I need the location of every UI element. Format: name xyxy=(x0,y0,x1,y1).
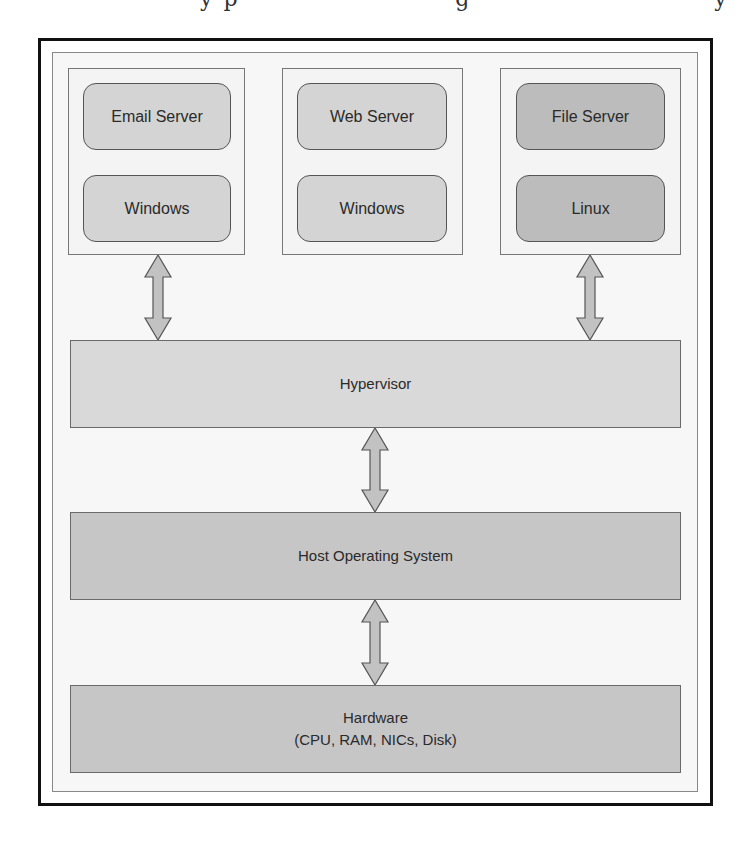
host-os-label: Host Operating System xyxy=(298,545,453,567)
bidirectional-arrow-icon xyxy=(575,255,605,340)
cropped-page-text-fragment: y p g y xyxy=(200,0,729,11)
app-label: Email Server xyxy=(111,108,203,126)
os-label: Windows xyxy=(340,200,405,218)
vm-email-server-app: Email Server xyxy=(83,83,231,150)
vm-web-server-app: Web Server xyxy=(297,83,447,150)
app-label: File Server xyxy=(552,108,629,126)
bidirectional-arrow-icon xyxy=(143,255,173,340)
hypervisor-label: Hypervisor xyxy=(340,373,412,395)
vm-file-server-app: File Server xyxy=(516,83,665,150)
vm-email-server-os: Windows xyxy=(83,175,231,242)
hardware-sublabel: (CPU, RAM, NICs, Disk) xyxy=(294,729,457,751)
bidirectional-arrow-icon xyxy=(360,600,390,685)
host-os-layer: Host Operating System xyxy=(70,512,681,600)
hardware-label: Hardware xyxy=(343,707,408,729)
bidirectional-arrow-icon xyxy=(360,428,390,512)
vm-web-server-os: Windows xyxy=(297,175,447,242)
hypervisor-layer: Hypervisor xyxy=(70,340,681,428)
os-label: Windows xyxy=(125,200,190,218)
vm-file-server-os: Linux xyxy=(516,175,665,242)
hardware-layer: Hardware (CPU, RAM, NICs, Disk) xyxy=(70,685,681,773)
app-label: Web Server xyxy=(330,108,414,126)
os-label: Linux xyxy=(571,200,609,218)
